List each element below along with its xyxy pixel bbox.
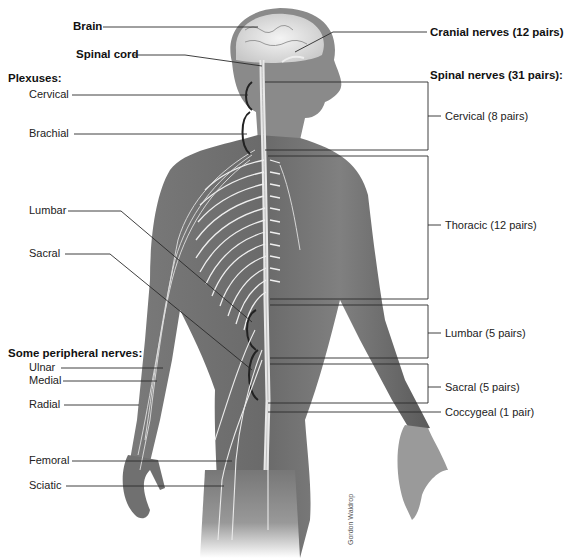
label-sacral-spinal: Sacral (5 pairs) (445, 381, 520, 394)
head (230, 8, 341, 142)
label-lumbar-spinal: Lumbar (5 pairs) (445, 327, 526, 340)
label-brain: Brain (73, 20, 102, 33)
label-medial: Medial (29, 374, 61, 387)
label-cervical-spinal: Cervical (8 pairs) (445, 110, 528, 123)
right-hand (398, 425, 449, 520)
heading-plexuses: Plexuses: (8, 72, 62, 85)
heading-spinal-nerves: Spinal nerves (31 pairs): (430, 69, 563, 82)
left-hand (123, 455, 165, 518)
label-cranial-nerves: Cranial nerves (12 pairs) (430, 26, 564, 39)
label-lumbar-plexus: Lumbar (29, 204, 66, 217)
label-sacral-plexus: Sacral (29, 247, 60, 260)
label-thoracic-spinal: Thoracic (12 pairs) (445, 219, 537, 232)
label-coccygeal-spinal: Coccygeal (1 pair) (445, 406, 534, 419)
artist-credit: Gordon Waldrop (347, 494, 354, 545)
label-brachial-plexus: Brachial (29, 127, 69, 140)
label-sciatic: Sciatic (29, 479, 61, 492)
label-femoral: Femoral (29, 454, 69, 467)
heading-peripheral-nerves: Some peripheral nerves: (8, 347, 142, 360)
torso (123, 135, 448, 558)
label-spinal-cord: Spinal cord (76, 48, 139, 61)
label-cervical-plexus: Cervical (29, 88, 69, 101)
label-radial: Radial (29, 398, 60, 411)
label-ulnar: Ulnar (29, 361, 55, 374)
